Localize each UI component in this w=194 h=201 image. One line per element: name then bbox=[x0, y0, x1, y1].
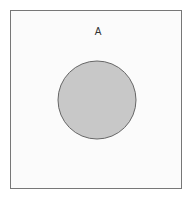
venn-canvas bbox=[0, 0, 194, 201]
set-a-circle bbox=[58, 61, 136, 139]
